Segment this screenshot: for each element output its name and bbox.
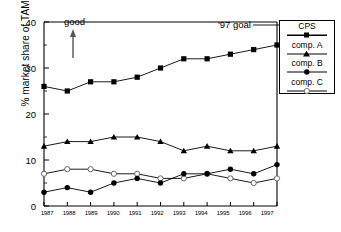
legend-label-comp-c: comp. C — [291, 77, 323, 87]
series-cps — [41, 42, 279, 93]
series-comp-a — [41, 134, 280, 153]
legend-label-comp-b: comp. B — [291, 58, 322, 68]
legend-label-comp-a: comp. A — [292, 40, 323, 50]
good-arrow-icon — [70, 29, 76, 58]
x-axis-ticks — [44, 202, 277, 206]
legend-label-cps: CPS — [298, 21, 315, 31]
legend-item-comp-a[interactable]: comp. A — [280, 40, 334, 59]
legend-item-comp-b[interactable]: comp. B — [280, 58, 334, 77]
y-axis-ticks — [44, 22, 49, 206]
legend-item-cps[interactable]: CPS — [280, 21, 334, 40]
legend-symbol-filled-circle-icon — [287, 68, 327, 76]
chart-container: % market share of TAM 40 30 20 10 0 good… — [0, 0, 341, 232]
legend-item-comp-c[interactable]: comp. C — [280, 77, 334, 96]
legend-symbol-open-circle-icon — [287, 87, 327, 95]
legend-symbol-filled-square-icon — [287, 31, 327, 39]
legend: CPS comp. A comp. B — [279, 20, 335, 94]
legend-symbol-filled-triangle-icon — [287, 50, 327, 58]
